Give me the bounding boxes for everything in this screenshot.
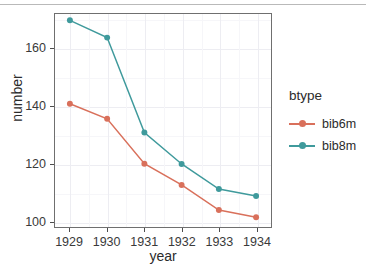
legend-item-label: bib8m xyxy=(322,139,356,153)
x-tick-label: 1933 xyxy=(205,235,233,249)
y-tick-label: 120 xyxy=(6,157,46,171)
x-axis-title: year xyxy=(54,248,272,264)
legend-item-bib8m[interactable]: bib8m xyxy=(289,135,356,157)
x-tick-label: 1931 xyxy=(130,235,158,249)
x-tick-mark xyxy=(69,228,70,232)
legend: btype bib6mbib8m xyxy=(289,88,356,157)
x-tick-label: 1932 xyxy=(168,235,196,249)
data-point-bib6m-1931 xyxy=(141,161,147,167)
x-tick-label: 1934 xyxy=(243,235,271,249)
legend-key-dot xyxy=(299,142,306,149)
data-point-bib6m-1930 xyxy=(104,116,110,122)
series-line-bib8m xyxy=(70,20,256,196)
legend-key-icon xyxy=(289,117,315,131)
data-point-bib6m-1934 xyxy=(253,214,259,220)
x-tick-mark xyxy=(257,228,258,232)
series-line-bib6m xyxy=(70,104,256,217)
data-point-bib8m-1931 xyxy=(141,130,147,136)
legend-key-icon xyxy=(289,139,315,153)
legend-title: btype xyxy=(289,88,356,103)
data-point-bib8m-1929 xyxy=(67,17,73,23)
data-point-bib8m-1933 xyxy=(216,186,222,192)
x-tick-mark xyxy=(107,228,108,232)
data-point-bib8m-1930 xyxy=(104,35,110,41)
x-tick-mark xyxy=(144,228,145,232)
plot-panel xyxy=(54,13,272,228)
y-tick-mark xyxy=(50,222,54,223)
x-tick-label: 1930 xyxy=(93,235,121,249)
chart-data-layer xyxy=(55,14,271,227)
y-tick-label: 100 xyxy=(6,215,46,229)
legend-item-label: bib6m xyxy=(322,117,356,131)
y-tick-mark xyxy=(50,48,54,49)
data-point-bib6m-1929 xyxy=(67,101,73,107)
data-point-bib6m-1933 xyxy=(216,207,222,213)
data-point-bib8m-1934 xyxy=(253,193,259,199)
legend-item-bib6m[interactable]: bib6m xyxy=(289,113,356,135)
y-axis-title: number xyxy=(9,38,25,158)
data-point-bib8m-1932 xyxy=(179,161,185,167)
x-tick-label: 1929 xyxy=(55,235,83,249)
data-point-bib6m-1932 xyxy=(179,182,185,188)
y-tick-mark xyxy=(50,106,54,107)
legend-key-dot xyxy=(299,120,306,127)
x-tick-mark xyxy=(219,228,220,232)
line-chart-figure: 100120140160 192919301931193219331934 ye… xyxy=(0,0,366,273)
legend-entries: bib6mbib8m xyxy=(289,113,356,157)
x-tick-mark xyxy=(182,228,183,232)
y-tick-mark xyxy=(50,164,54,165)
